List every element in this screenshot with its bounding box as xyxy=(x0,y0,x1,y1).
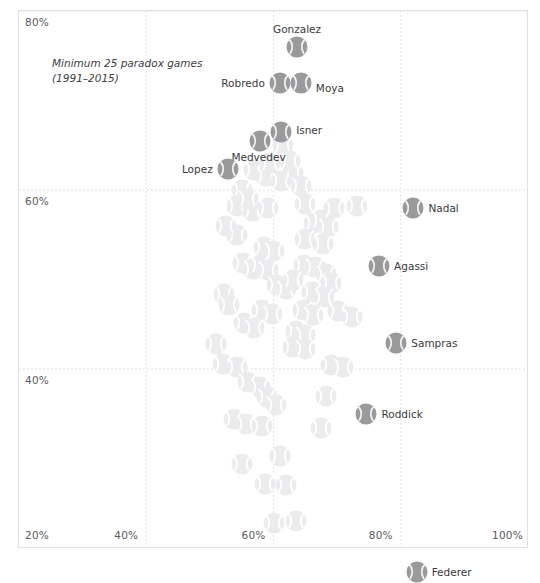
data-point-ball-nadal[interactable] xyxy=(402,197,424,219)
data-point-ball-sampras[interactable] xyxy=(385,332,407,354)
x-tick-label: 60% xyxy=(242,529,266,541)
data-point-ball xyxy=(275,474,297,496)
data-point-ball-roddick[interactable] xyxy=(355,403,377,425)
data-point-ball xyxy=(294,338,316,360)
point-label-isner: Isner xyxy=(296,124,322,136)
chart-annotation: Minimum 25 paradox games (1991–2015) xyxy=(52,56,202,86)
plot-area: GonzalezRobredoMoyaIsnerMedvedevLopezNad… xyxy=(19,11,528,548)
point-label-sampras: Sampras xyxy=(411,337,457,349)
x-tick-label: 100% xyxy=(492,529,523,541)
point-label-medvedev: Medvedev xyxy=(231,151,285,163)
data-point-ball xyxy=(312,233,334,255)
data-point-ball-medvedev[interactable] xyxy=(249,130,271,152)
data-point-ball xyxy=(231,453,253,475)
point-label-nadal: Nadal xyxy=(428,202,458,214)
data-point-ball xyxy=(315,385,337,407)
data-point-ball-robredo[interactable] xyxy=(269,72,291,94)
data-point-ball-moya[interactable] xyxy=(290,72,312,94)
data-point-ball-federer[interactable] xyxy=(406,561,428,583)
data-point-ball xyxy=(243,317,265,339)
y-tick-label: 40% xyxy=(25,374,49,386)
data-point-ball xyxy=(265,394,287,416)
data-point-ball-isner[interactable] xyxy=(270,121,292,143)
data-point-ball xyxy=(205,333,227,355)
data-point-ball-agassi[interactable] xyxy=(368,255,390,277)
x-tick-label: 80% xyxy=(369,529,393,541)
point-label-robredo: Robredo xyxy=(221,77,265,89)
point-label-federer: Federer xyxy=(432,566,472,578)
point-label-agassi: Agassi xyxy=(394,260,428,272)
data-point-ball xyxy=(269,445,291,467)
data-point-ball xyxy=(310,417,332,439)
data-point-ball xyxy=(263,512,285,534)
point-label-gonzalez: Gonzalez xyxy=(273,23,321,35)
data-point-ball xyxy=(341,306,363,328)
data-point-ball xyxy=(251,415,273,437)
data-point-ball-lopez[interactable] xyxy=(217,158,239,180)
point-label-moya: Moya xyxy=(316,82,344,94)
data-point-ball xyxy=(215,215,237,237)
x-tick-label: 40% xyxy=(114,529,138,541)
data-point-ball xyxy=(332,356,354,378)
data-point-ball-gonzalez[interactable] xyxy=(286,36,308,58)
data-point-ball xyxy=(282,269,304,291)
data-point-ball xyxy=(346,195,368,217)
point-label-lopez: Lopez xyxy=(182,163,213,175)
x-tick-label: 20% xyxy=(25,529,49,541)
data-point-ball xyxy=(237,188,259,210)
y-tick-label: 80% xyxy=(25,16,49,28)
point-label-roddick: Roddick xyxy=(381,408,422,420)
data-point-ball xyxy=(254,473,276,495)
y-tick-label: 60% xyxy=(25,195,49,207)
data-point-ball xyxy=(285,510,307,532)
data-point-ball xyxy=(257,197,279,219)
